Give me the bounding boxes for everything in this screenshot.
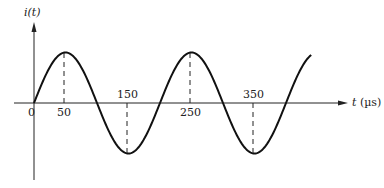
- x-axis-arrow-icon: [338, 101, 348, 106]
- tick-label-0: 0: [28, 106, 35, 119]
- y-axis-label: i(t): [24, 6, 41, 19]
- tick-label-350: 350: [243, 88, 264, 101]
- x-axis-label: t (µs): [352, 96, 381, 109]
- tick-label-150: 150: [117, 88, 138, 101]
- tick-label-50: 50: [57, 106, 71, 119]
- chart-canvas: [0, 0, 384, 188]
- tick-label-250: 250: [180, 106, 201, 119]
- y-axis-arrow-icon: [32, 22, 37, 32]
